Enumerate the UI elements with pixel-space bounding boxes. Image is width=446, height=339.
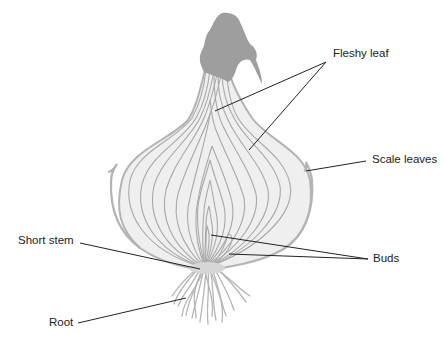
leader-scale-leaves bbox=[306, 161, 366, 171]
label-short-stem: Short stem bbox=[18, 235, 74, 247]
label-root: Root bbox=[49, 317, 73, 329]
label-fleshy-leaf: Fleshy leaf bbox=[333, 48, 389, 60]
label-buds: Buds bbox=[373, 253, 399, 265]
roots bbox=[172, 268, 250, 324]
leader-root bbox=[78, 298, 186, 323]
dry-tip bbox=[200, 13, 262, 84]
label-scale-leaves: Scale leaves bbox=[372, 154, 437, 166]
